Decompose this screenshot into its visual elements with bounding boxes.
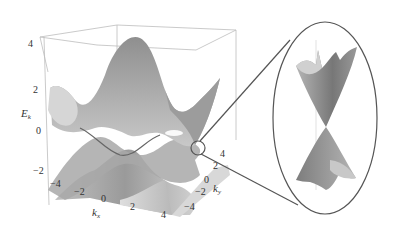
- y-tick: 0: [204, 174, 209, 185]
- y-tick: −2: [195, 186, 206, 197]
- x-tick: 0: [101, 193, 106, 204]
- y-tick: −4: [184, 201, 195, 212]
- band-structure-figure: 4 2 0 −2 Ek −4 −2 0 2 4 kx 4 2 0 −2 −4 k…: [0, 0, 400, 230]
- upper-band-surface: [48, 37, 220, 155]
- z-tick: −2: [33, 165, 44, 176]
- x-tick: 4: [161, 209, 166, 220]
- z-axis-label: Ek: [20, 107, 32, 121]
- z-axis: 4 2 0 −2 Ek: [20, 38, 44, 176]
- z-tick: 4: [28, 38, 33, 49]
- dirac-cone-inset: [273, 22, 377, 214]
- y-axis-label: ky: [213, 182, 222, 196]
- x-tick: −2: [74, 186, 85, 197]
- z-tick: 2: [33, 84, 38, 95]
- y-tick: 4: [220, 148, 225, 159]
- x-tick: −4: [50, 178, 61, 189]
- z-tick: 0: [36, 125, 41, 136]
- x-tick: 2: [130, 201, 135, 212]
- x-axis-label: kx: [92, 206, 101, 220]
